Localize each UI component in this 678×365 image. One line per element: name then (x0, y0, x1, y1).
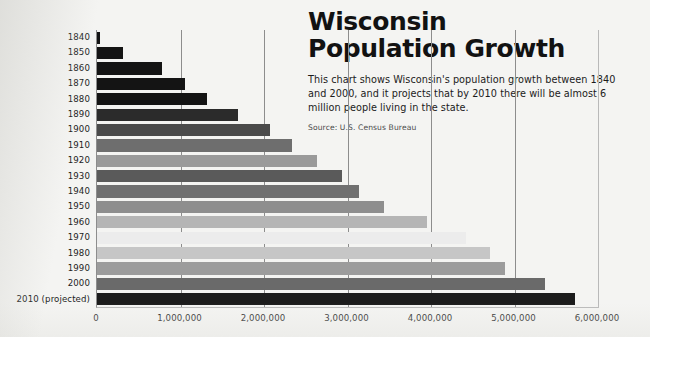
y-axis-label-1980: 1980 (0, 248, 90, 258)
x-axis-label-2000000: 2,000,000 (241, 313, 286, 323)
bar-1890 (97, 109, 238, 121)
bar-1930 (97, 170, 342, 182)
bar-1880 (97, 93, 207, 105)
y-axis-label-2010-projected-: 2010 (projected) (0, 294, 90, 304)
bar-2010-projected- (97, 293, 575, 305)
bar-1940 (97, 185, 359, 197)
bar-row (97, 153, 598, 168)
bar-row (97, 107, 598, 122)
bar-row (97, 30, 598, 45)
y-axis-label-1950: 1950 (0, 201, 90, 211)
y-axis-label-1940: 1940 (0, 186, 90, 196)
bar-row (97, 215, 598, 230)
x-axis-label-5000000: 5,000,000 (491, 313, 536, 323)
y-axis-label-1920: 1920 (0, 155, 90, 165)
bar-2000 (97, 278, 545, 290)
bar-row (97, 138, 598, 153)
bar-1850 (97, 47, 123, 59)
y-axis-label-1890: 1890 (0, 109, 90, 119)
bar-row (97, 169, 598, 184)
x-axis-label-4000000: 4,000,000 (408, 313, 453, 323)
x-axis-label-1000000: 1,000,000 (157, 313, 202, 323)
bar-row (97, 292, 598, 307)
bar-1900 (97, 124, 270, 136)
y-axis-label-1960: 1960 (0, 217, 90, 227)
y-axis-label-1860: 1860 (0, 63, 90, 73)
bar-row (97, 276, 598, 291)
bar-1980 (97, 247, 490, 259)
bar-1860 (97, 62, 162, 74)
paper-edge-bottom (0, 337, 678, 365)
y-axis-label-1870: 1870 (0, 78, 90, 88)
bar-1920 (97, 155, 317, 167)
bar-row (97, 184, 598, 199)
y-axis-label-1840: 1840 (0, 32, 90, 42)
bar-row (97, 92, 598, 107)
y-axis-label-1930: 1930 (0, 171, 90, 181)
bar-1970 (97, 232, 466, 244)
y-axis-label-2000: 2000 (0, 278, 90, 288)
bar-row (97, 199, 598, 214)
bar-1870 (97, 78, 185, 90)
bar-row (97, 76, 598, 91)
bar-row (97, 61, 598, 76)
y-axis-label-1970: 1970 (0, 232, 90, 242)
bar-1840 (97, 32, 100, 44)
bar-1990 (97, 262, 505, 274)
plot-area (96, 30, 599, 308)
x-axis-label-0: 0 (93, 313, 99, 323)
y-axis-label-1910: 1910 (0, 140, 90, 150)
y-axis-label-1900: 1900 (0, 124, 90, 134)
bar-row (97, 230, 598, 245)
x-axis-label-6000000: 6,000,000 (575, 313, 620, 323)
chart-page: Wisconsin Population Growth This chart s… (0, 0, 678, 365)
bar-row (97, 245, 598, 260)
bar-row (97, 261, 598, 276)
bar-row (97, 45, 598, 60)
bar-row (97, 122, 598, 137)
y-axis-label-1880: 1880 (0, 94, 90, 104)
paper-edge-right (650, 0, 678, 337)
y-axis-label-1850: 1850 (0, 47, 90, 57)
bar-1910 (97, 139, 292, 151)
x-axis-label-3000000: 3,000,000 (324, 313, 369, 323)
y-axis-label-1990: 1990 (0, 263, 90, 273)
bar-1960 (97, 216, 427, 228)
bar-1950 (97, 201, 384, 213)
